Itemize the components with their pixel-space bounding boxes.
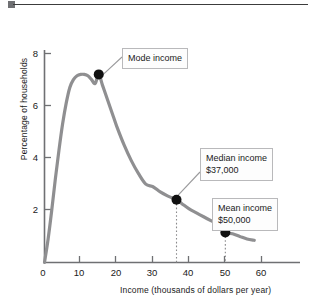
income-distribution-chart: 8 6 4 2 0 10 20 30 40 50 60 Percentage o…: [0, 12, 318, 305]
callout-mode-income: Mode income: [122, 48, 188, 69]
callout-mean-label: Mean income: [218, 203, 272, 213]
x-axis-ticks: [80, 256, 262, 262]
callout-mean-income: Mean income $50,000: [212, 198, 278, 231]
callout-median-value: $37,000: [206, 164, 267, 176]
median-marker: [172, 195, 182, 205]
callout-median-label: Median income: [206, 153, 267, 163]
x-axis-title: Income (thousands of dollars per year): [120, 285, 271, 295]
callout-median-income: Median income $37,000: [200, 148, 273, 181]
x-tick-label-30: 30: [142, 267, 162, 278]
mode-marker: [94, 69, 104, 79]
horizontal-divider: [13, 4, 308, 5]
callout-mean-value: $50,000: [218, 214, 272, 226]
top-rule: [0, 0, 318, 12]
y-axis-title: Percentage of households: [19, 29, 29, 189]
mode-leader-line: [103, 57, 122, 74]
y-tick-label-2: 2: [24, 204, 38, 215]
callout-mode-label: Mode income: [128, 53, 182, 63]
x-tick-label-40: 40: [178, 267, 198, 278]
x-tick-label-0: 0: [33, 267, 53, 278]
x-tick-label-60: 60: [251, 267, 271, 278]
x-tick-label-20: 20: [106, 267, 126, 278]
x-tick-label-10: 10: [69, 267, 89, 278]
median-leader-line: [178, 172, 200, 196]
x-tick-label-50: 50: [215, 267, 235, 278]
